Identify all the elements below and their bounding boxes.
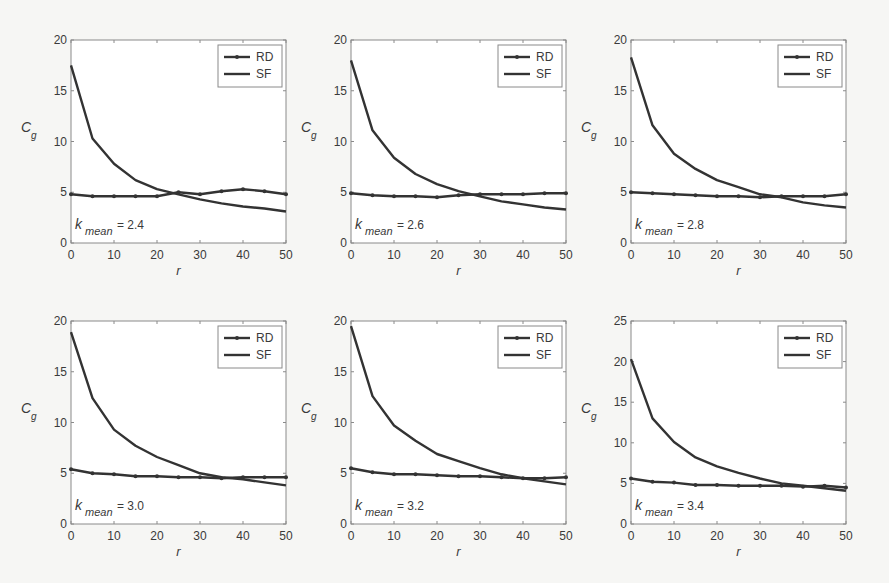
data-point-marker: [284, 475, 288, 479]
data-point-marker: [801, 194, 805, 198]
legend-label: RD: [536, 50, 554, 64]
legend-label: RD: [816, 331, 834, 345]
k-mean-annotation: k: [75, 497, 83, 513]
data-point-marker: [91, 471, 95, 475]
x-tick-label: 30: [473, 248, 487, 262]
k-mean-annotation: k: [355, 497, 363, 513]
data-point-marker: [371, 470, 375, 474]
y-tick-label: 5: [340, 185, 347, 199]
data-point-marker: [651, 191, 655, 195]
x-tick-label: 10: [387, 248, 401, 262]
data-point-marker: [198, 475, 202, 479]
y-tick-label: 10: [54, 135, 68, 149]
legend: RDSF: [778, 45, 842, 87]
x-tick-label: 40: [516, 529, 530, 543]
data-point-marker: [564, 475, 568, 479]
y-axis-label-subscript: g: [591, 411, 597, 422]
y-tick-label: 10: [334, 416, 348, 430]
y-tick-label: 20: [614, 355, 628, 369]
y-tick-label: 0: [620, 517, 627, 531]
y-tick-label: 10: [614, 135, 628, 149]
legend-label: SF: [536, 348, 551, 362]
y-tick-label: 20: [334, 314, 348, 328]
x-tick-label: 30: [753, 248, 767, 262]
data-point-marker: [500, 475, 504, 479]
data-point-marker: [112, 194, 116, 198]
x-tick-label: 50: [279, 248, 293, 262]
data-point-marker: [414, 194, 418, 198]
legend-label: SF: [816, 67, 831, 81]
legend-label: SF: [536, 67, 551, 81]
x-axis-label: r: [176, 263, 181, 278]
data-point-marker: [715, 483, 719, 487]
y-tick-label: 25: [614, 314, 628, 328]
data-point-marker: [263, 475, 267, 479]
y-tick-label: 20: [54, 314, 68, 328]
x-tick-label: 50: [559, 529, 573, 543]
x-tick-label: 50: [279, 529, 293, 543]
data-point-marker: [629, 190, 633, 194]
x-tick-label: 40: [796, 529, 810, 543]
data-point-marker: [500, 192, 504, 196]
legend: RDSF: [218, 326, 282, 368]
x-tick-label: 40: [796, 248, 810, 262]
x-tick-label: 30: [473, 529, 487, 543]
data-point-marker: [241, 187, 245, 191]
data-point-marker: [651, 480, 655, 484]
x-tick-label: 10: [107, 248, 121, 262]
k-mean-annotation: k: [635, 216, 643, 232]
data-point-marker: [284, 192, 288, 196]
subplot-6: 010203040500510152025CgrRDSFkmean= 3.4: [581, 314, 853, 559]
chart-canvas: 0102030405005101520CgrRDSFkmean= 2.40102…: [0, 0, 889, 583]
data-point-marker: [543, 191, 547, 195]
legend: RDSF: [218, 45, 282, 87]
k-mean-annotation-value: = 3.0: [117, 499, 144, 513]
data-point-marker: [112, 472, 116, 476]
data-point-marker: [823, 194, 827, 198]
data-point-marker: [737, 484, 741, 488]
y-tick-label: 10: [334, 135, 348, 149]
k-mean-annotation-subscript: mean: [645, 225, 673, 237]
y-tick-label: 0: [340, 236, 347, 250]
x-tick-label: 30: [193, 248, 207, 262]
x-tick-label: 20: [710, 248, 724, 262]
data-point-marker: [694, 483, 698, 487]
data-point-marker: [672, 192, 676, 196]
y-axis-label-subscript: g: [31, 130, 37, 141]
data-point-marker: [134, 474, 138, 478]
data-point-marker: [435, 195, 439, 199]
y-tick-label: 15: [334, 84, 348, 98]
figure-grid: 0102030405005101520CgrRDSFkmean= 2.40102…: [0, 0, 889, 583]
y-axis-label-subscript: g: [31, 411, 37, 422]
data-point-marker: [457, 193, 461, 197]
k-mean-annotation-subscript: mean: [645, 506, 673, 518]
data-point-marker: [392, 472, 396, 476]
k-mean-annotation: k: [75, 216, 83, 232]
legend: RDSF: [498, 45, 562, 87]
x-tick-label: 10: [667, 248, 681, 262]
data-point-marker: [564, 191, 568, 195]
data-point-marker: [478, 474, 482, 478]
y-tick-label: 5: [60, 185, 67, 199]
legend-label: SF: [256, 67, 271, 81]
y-tick-label: 20: [54, 33, 68, 47]
x-tick-label: 0: [68, 248, 75, 262]
data-point-marker: [263, 189, 267, 193]
y-tick-label: 15: [54, 84, 68, 98]
y-tick-label: 5: [60, 466, 67, 480]
data-point-marker: [758, 195, 762, 199]
x-tick-label: 10: [387, 529, 401, 543]
data-point-marker: [155, 194, 159, 198]
x-tick-label: 30: [193, 529, 207, 543]
y-tick-label: 0: [60, 517, 67, 531]
data-point-marker: [349, 191, 353, 195]
data-point-marker: [69, 467, 73, 471]
k-mean-annotation-subscript: mean: [365, 506, 393, 518]
y-axis-label-subscript: g: [591, 130, 597, 141]
x-tick-label: 0: [348, 248, 355, 262]
y-tick-label: 10: [614, 436, 628, 450]
y-tick-label: 5: [620, 476, 627, 490]
x-tick-label: 0: [348, 529, 355, 543]
y-axis-label-subscript: g: [311, 130, 317, 141]
x-tick-label: 40: [236, 248, 250, 262]
